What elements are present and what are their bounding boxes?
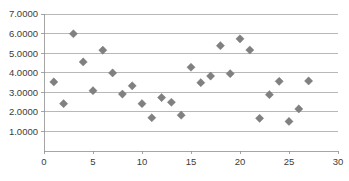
data-point [60, 100, 68, 108]
data-point [187, 63, 195, 71]
x-tick-label: 15 [186, 156, 197, 167]
data-point [128, 82, 136, 90]
y-axis [41, 14, 44, 151]
y-tick-label: 4.0000 [9, 67, 38, 78]
x-tick-label: 20 [235, 156, 246, 167]
data-point [197, 79, 205, 87]
data-point [207, 72, 215, 80]
data-point [236, 35, 244, 43]
data-point [118, 90, 126, 98]
y-tick-label: 2.0000 [9, 106, 38, 117]
data-point [216, 42, 224, 50]
scatter-chart: 1.00002.00003.00004.00005.00006.00007.00… [0, 0, 349, 181]
x-tick-label: 5 [90, 156, 95, 167]
data-point [285, 117, 293, 125]
data-point [275, 77, 283, 85]
y-tick-label: 6.0000 [9, 28, 38, 39]
data-point [50, 78, 58, 86]
data-point [265, 91, 273, 99]
data-point [109, 69, 117, 77]
data-point [256, 114, 264, 122]
y-tick-label: 5.0000 [9, 48, 38, 59]
data-points [50, 30, 313, 126]
x-tick-label: 25 [284, 156, 295, 167]
x-tick-label: 10 [137, 156, 148, 167]
x-tick-label: 30 [333, 156, 344, 167]
y-tick-label: 1.0000 [9, 126, 38, 137]
plot-canvas: 1.00002.00003.00004.00005.00006.00007.00… [0, 0, 349, 181]
x-tick-label: 0 [41, 156, 46, 167]
data-point [226, 70, 234, 78]
data-point [148, 114, 156, 122]
data-point [305, 77, 313, 85]
x-axis-tick-labels: 051015202530 [41, 156, 343, 167]
data-point [158, 93, 166, 101]
data-point [69, 30, 77, 38]
y-axis-tick-labels: 1.00002.00003.00004.00005.00006.00007.00… [9, 8, 38, 136]
y-tick-label: 7.0000 [9, 8, 38, 19]
data-point [167, 98, 175, 106]
data-point [79, 58, 87, 66]
y-tick-label: 3.0000 [9, 87, 38, 98]
x-axis [44, 151, 338, 154]
data-point [89, 87, 97, 95]
gridlines [44, 14, 338, 131]
data-point [138, 100, 146, 108]
data-point [177, 111, 185, 119]
